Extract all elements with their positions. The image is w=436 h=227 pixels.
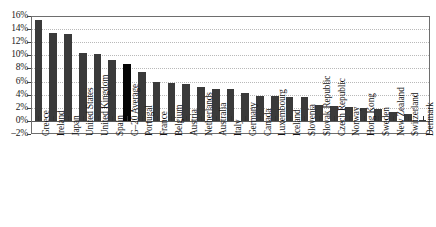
x-axis-tick-mark [408,116,409,121]
x-axis-tick-label: Switzerland [411,93,420,136]
y-axis-tick-label: –2% [11,129,28,139]
x-axis-tick-mark [245,116,246,121]
x-axis-tick-mark [142,116,143,121]
x-axis-tick-label: United States [86,87,95,136]
x-axis-tick-label: Italy [234,119,243,136]
x-axis-tick-mark [68,116,69,121]
x-axis-tick-mark [216,116,217,121]
x-axis-tick-label: Japan [72,115,81,136]
y-axis-tick-label: 14% [11,24,28,34]
x-axis-tick-mark [304,116,305,121]
x-axis-tick-label: Belgium [175,105,184,136]
x-axis-tick-label: Denmark [426,102,435,136]
x-axis-tick-label: Austria [190,109,199,136]
y-axis-tick-mark [27,134,31,135]
bar [35,20,43,121]
x-axis-tick-label: Slovak Republic [323,76,332,136]
x-axis-tick-mark [334,116,335,121]
x-axis-tick-mark [378,116,379,121]
x-axis-tick-label: G–20 Average [131,84,140,136]
x-axis-tick-label: New Zealand [397,87,406,136]
x-axis-tick-mark [349,116,350,121]
x-axis-tick-mark [364,116,365,121]
x-axis-tick-label: Germany [249,102,258,136]
x-axis-tick-mark [38,116,39,121]
x-axis-tick-mark [393,116,394,121]
x-axis-tick-label: Australia [219,103,228,136]
bar-chart: 16%14%12%10%8%6%4%2%0%–2% GreeceIrelandJ… [0,0,436,227]
y-axis-tick-label: 12% [11,37,28,47]
x-axis-tick-mark [231,116,232,121]
x-axis-tick-mark [157,116,158,121]
x-axis-tick-mark [98,116,99,121]
x-axis-tick-mark [83,116,84,121]
x-axis-tick-mark [423,116,424,121]
x-axis-tick-label: Slovenia [308,104,317,136]
bar [64,34,72,121]
x-axis-tick-label: Ireland [57,110,66,136]
y-axis-tick-label: 10% [11,50,28,60]
x-axis-tick-label: Greece [42,110,51,136]
x-axis-tick-label: Portugal [145,105,154,136]
bar [49,33,57,121]
y-axis-tick-label: 16% [11,11,28,21]
x-axis-tick-mark [290,116,291,121]
x-axis-tick-mark [112,116,113,121]
x-axis-tick-label: Luxembourg [278,89,287,136]
x-axis-tick-mark [275,116,276,121]
x-axis-tick-mark [127,116,128,121]
x-axis-tick-mark [53,116,54,121]
x-axis-tick-label: Iceland [293,109,302,136]
x-axis-tick-mark [319,116,320,121]
y-axis: 16%14%12%10%8%6%4%2%0%–2% [0,0,31,227]
x-axis-tick-label: Netherlands [205,92,214,136]
x-axis-tick-label: Sweden [382,107,391,136]
x-axis-tick-label: Czech Republic [338,78,347,136]
x-axis-labels: GreeceIrelandJapanUnited StatesUnited Ki… [31,136,430,227]
x-axis-tick-mark [260,116,261,121]
x-axis-tick-label: United Kingdom [101,75,110,136]
x-axis-tick-label: France [160,111,169,136]
x-axis-tick-label: Hong Kong [367,93,376,136]
x-axis-tick-label: Spain [116,115,125,136]
x-axis-tick-mark [186,116,187,121]
x-axis-tick-label: Canada [264,109,273,136]
x-axis-tick-label: Norway [352,107,361,136]
x-axis-tick-mark [171,116,172,121]
x-axis-tick-mark [201,116,202,121]
